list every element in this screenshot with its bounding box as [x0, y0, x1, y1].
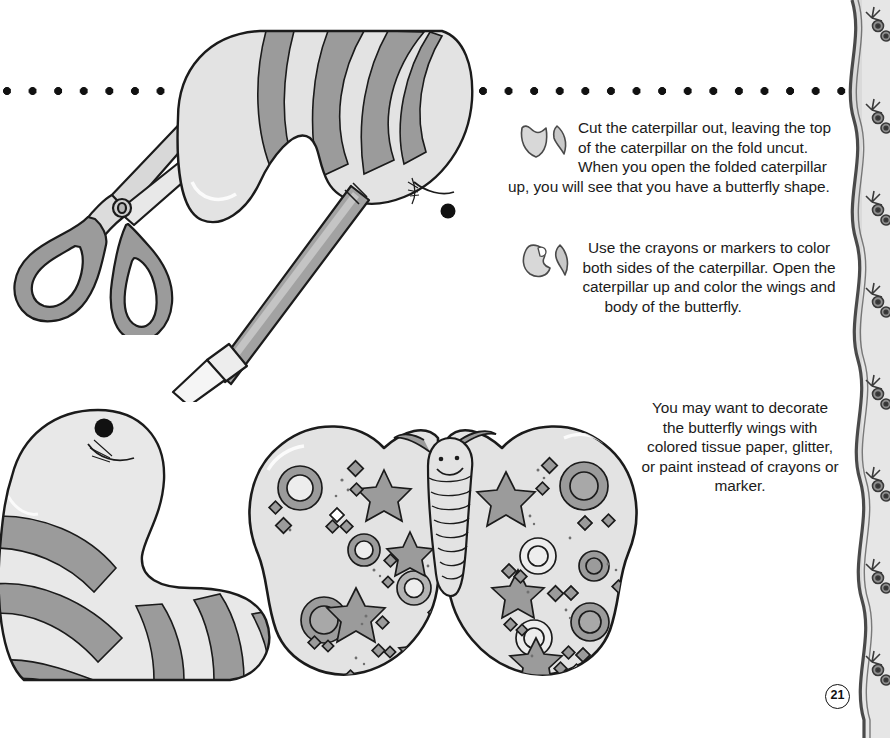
- instruction-block-decorate: You may want to decorate the butterfly w…: [640, 398, 840, 496]
- vine-border-decoration: [838, 0, 890, 738]
- craft-instruction-page: Cut the caterpillar out, leaving the top…: [0, 0, 890, 738]
- open-caterpillar-illustration: [0, 388, 324, 688]
- scissors-illustration: [0, 95, 210, 335]
- paper-scrap-icon: [516, 120, 574, 160]
- crayon-illustration: [155, 172, 385, 402]
- page-number-badge: 21: [825, 684, 850, 709]
- butterfly-body: [394, 431, 496, 596]
- instruction-text-decorate: You may want to decorate the butterfly w…: [642, 399, 839, 494]
- fold-line-left-segment: [2, 85, 182, 97]
- paper-scrap-icon: [518, 240, 576, 280]
- folded-caterpillar-illustration: [142, 14, 482, 264]
- fold-line-right-segment: [478, 85, 850, 97]
- instruction-block-cut-out: Cut the caterpillar out, leaving the top…: [508, 118, 838, 196]
- instruction-text-color: Use the crayons or markers to color both…: [582, 239, 835, 315]
- instruction-block-color: Use the crayons or markers to color both…: [508, 238, 838, 316]
- butterfly-illustration: [238, 320, 648, 690]
